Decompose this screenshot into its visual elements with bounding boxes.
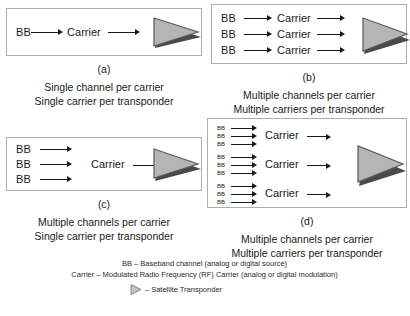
panel-d-caption-line1: Multiple channels per carrier [207,233,407,247]
carrier-label: Carrier [91,158,125,170]
panel-d-row: BB [217,182,257,190]
arrow-carrier-to-transponder-icon [307,162,331,169]
bb-label: BB [16,26,31,38]
legend-transponder-definition: – Satellite Transponder [145,284,222,295]
arrow-carrier-to-transponder-icon [307,133,331,140]
panel-c-box: BB BB BB Carrier [6,137,202,191]
arrow-bb-to-carrier-icon [244,31,272,38]
panel-a: BB Carrier (a) Single channel per carrie… [6,8,202,108]
bb-label: BB [217,141,225,147]
panel-d-row: BB [217,198,257,206]
bb-label: BB [221,44,236,56]
triangle-transponder-icon [149,146,201,184]
panel-d-row: BB [217,161,257,169]
panel-b-letter: (b) [211,71,407,83]
arrow-bb-to-carrier-icon [231,191,257,198]
arrow-bb-to-carrier-icon [40,161,72,168]
legend-carrier-definition: Carrier – Modulated Radio Frequency (RF)… [0,269,409,280]
bb-label: BB [217,162,225,168]
panel-d-row: BB [217,190,257,198]
panel-d-row: BB [217,140,257,148]
legend-transponder-row: – Satellite Transponder [0,283,409,296]
carrier-label: Carrier [265,187,299,199]
arrow-bb-to-carrier-icon [231,199,257,206]
arrow-bb-to-carrier-icon [231,154,257,161]
legend: BB – Baseband channel (analog or digital… [0,258,409,296]
bb-label: BB [217,154,225,160]
arrow-carrier-to-transponder-icon [307,191,331,198]
panel-c-caption-line1: Multiple channels per carrier [6,216,202,230]
triangle-transponder-icon [129,283,142,296]
arrow-bb-to-carrier-icon [244,47,272,54]
carrier-label: Carrier [67,26,101,38]
triangle-transponder-icon [149,15,201,51]
arrow-bb-to-carrier-icon [231,183,257,190]
panel-d-caption: Multiple channels per carrier Multiple c… [207,233,407,260]
carrier-label: Carrier [265,158,299,170]
arrow-bb-to-carrier-icon [31,29,63,36]
arrow-bb-to-carrier-icon [40,146,72,153]
panel-d-row: BB [217,132,257,140]
arrow-carrier-to-transponder-icon [108,29,140,36]
carrier-label: Carrier [265,129,299,141]
bb-label: BB [16,143,31,155]
bb-label: BB [217,170,225,176]
arrow-carrier-to-transponder-icon [317,15,345,22]
panel-c-caption: Multiple channels per carrier Single car… [6,216,202,243]
panel-d: BB BB BB Carrier BB [207,118,407,260]
bb-label: BB [217,183,225,189]
panel-a-box: BB Carrier [6,8,202,56]
arrow-bb-to-carrier-icon [231,141,257,148]
panel-d-row: BB [217,124,257,132]
triangle-transponder-icon [358,15,410,57]
arrow-bb-to-carrier-icon [40,176,72,183]
panel-a-caption-line1: Single channel per carrier [6,81,202,95]
carrier-label: Carrier [277,44,311,56]
bb-label: BB [221,12,236,24]
panel-c-letter: (c) [6,198,202,210]
bb-label: BB [217,191,225,197]
bb-label: BB [16,158,31,170]
panel-a-caption-line2: Single carrier per transponder [6,95,202,109]
triangle-transponder-icon [352,143,406,189]
arrow-bb-to-carrier-icon [244,15,272,22]
panel-a-letter: (a) [6,63,202,75]
panel-d-letter: (d) [207,215,407,227]
bb-label: BB [217,125,225,131]
panel-c: BB BB BB Carrier (c) Multiple [6,137,202,243]
carrier-label: Carrier [277,28,311,40]
bb-label: BB [217,133,225,139]
panel-d-group: BB BB BB [217,182,257,206]
panel-a-caption: Single channel per carrier Single carrie… [6,81,202,108]
panel-c-caption-line2: Single carrier per transponder [6,230,202,244]
arrow-carrier-to-transponder-icon [317,47,345,54]
panel-d-group: BB BB BB [217,153,257,177]
panel-b-caption: Multiple channels per carrier Multiple c… [211,89,407,116]
bb-label: BB [217,199,225,205]
panel-d-box: BB BB BB Carrier BB [207,118,407,208]
bb-label: BB [16,173,31,185]
arrow-bb-to-carrier-icon [231,162,257,169]
arrow-bb-to-carrier-icon [231,133,257,140]
arrow-bb-to-carrier-icon [231,125,257,132]
arrow-bb-to-carrier-icon [231,170,257,177]
arrow-carrier-to-transponder-icon [317,31,345,38]
carrier-label: Carrier [277,12,311,24]
panel-d-group: BB BB BB [217,124,257,148]
panel-d-row: BB [217,153,257,161]
panel-b-caption-line2: Multiple carriers per transponder [211,103,407,117]
panel-b-box: BB Carrier BB Carrier BB Carrier [211,4,407,64]
legend-bb-definition: BB – Baseband channel (analog or digital… [0,258,409,269]
bb-label: BB [221,28,236,40]
panel-b: BB Carrier BB Carrier BB Carrier [211,4,407,116]
panel-b-caption-line1: Multiple channels per carrier [211,89,407,103]
panel-d-row: BB [217,169,257,177]
